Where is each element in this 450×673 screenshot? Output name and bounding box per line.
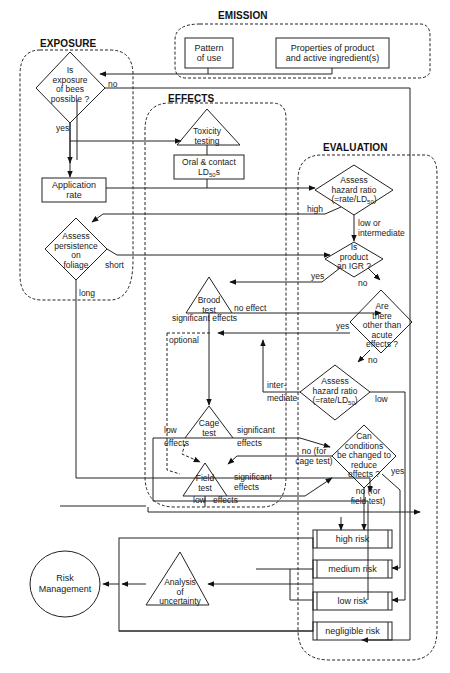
field-low-label: low	[193, 496, 206, 506]
cage-significant-label: significanteffects	[237, 426, 275, 448]
risk-management-label: RiskManagement	[30, 573, 100, 594]
igr-no-label: no	[358, 279, 367, 289]
optional-label: optional	[169, 336, 199, 346]
field-test-label: Fieldtest	[188, 474, 222, 493]
can-conditions-label: Canconditions be changed toreduce effect…	[334, 432, 394, 480]
field-significant-label: significanteffects	[234, 473, 272, 492]
evaluation-title: EVALUATION	[323, 142, 388, 153]
low-label: low	[375, 395, 388, 405]
no-for-field-label: no (forfield test)	[346, 487, 390, 506]
pattern-of-use-label: Patternof use	[185, 43, 233, 63]
toxicity-testing-label: Toxicitytesting	[182, 127, 232, 146]
cage-low-effects-label: loweffects	[164, 426, 189, 448]
is-igr-label: Isproductan IGR ?	[332, 243, 376, 272]
no-for-cage-label: no (forcage test)	[292, 447, 336, 466]
application-rate-label: Applicationrate	[42, 180, 106, 200]
low-risk-label: low risk	[313, 596, 392, 606]
uncertainty-label: Analysisofuncertainty	[152, 578, 208, 607]
other-effects-label: Arethere other thanacute effects ?	[356, 302, 408, 350]
effects-title: EFFECTS	[168, 93, 214, 104]
oral-contact-label: Oral & contact LD50s	[174, 158, 244, 180]
negligible-risk-label: negligible risk	[313, 626, 392, 636]
high-label: high	[307, 205, 323, 215]
long-label: long	[79, 289, 95, 299]
properties-label: Properties of productand active ingredie…	[276, 43, 389, 63]
igr-yes-label: yes	[311, 272, 324, 282]
low-or-intermediate-label: low orintermediate	[358, 219, 405, 238]
intermediate-label: inter-mediate	[267, 381, 297, 403]
field-effects-label: effects	[213, 496, 238, 506]
hazard-ratio-1-label: Assesshazard ratio (=rate/LD50)	[324, 176, 384, 208]
emission-title: EMISSION	[218, 10, 268, 21]
exposure-question-label: Isexposure of beespossible ?	[44, 66, 96, 104]
brood-no-effect-label: no effect	[234, 304, 266, 314]
short-label: short	[105, 261, 124, 271]
yes-reduce-label: yes	[391, 467, 404, 477]
other-yes-label: yes	[336, 322, 349, 332]
risk-boxes	[313, 530, 392, 640]
other-no-label: no	[368, 356, 377, 366]
hazard-ratio-2-label: Assesshazard ratio (=rate/LD50)	[305, 377, 365, 409]
exposure-title: EXPOSURE	[40, 38, 96, 49]
exposure-yes-label: yes	[56, 124, 69, 134]
brood-significant-label: significant effects	[172, 314, 237, 324]
exposure-no-label: no	[108, 80, 117, 90]
high-risk-label: high risk	[313, 534, 392, 544]
medium-risk-label: medium risk	[313, 564, 392, 574]
cage-test-label: Cagetest	[191, 419, 227, 438]
persistence-label: Assesspersistence onfoliage	[52, 232, 100, 270]
